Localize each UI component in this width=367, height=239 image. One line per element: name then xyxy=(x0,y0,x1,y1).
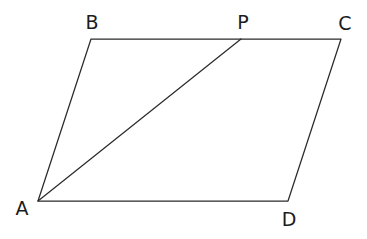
figure-canvas xyxy=(0,0,367,239)
parallelogram-outline xyxy=(38,39,341,201)
vertex-label-p: P xyxy=(237,13,248,32)
segment-ap xyxy=(38,39,241,201)
vertex-label-a: A xyxy=(16,199,29,218)
vertex-label-d: D xyxy=(282,210,297,229)
vertex-label-b: B xyxy=(85,13,98,32)
geometry-figure: A B P C D xyxy=(0,0,367,239)
vertex-label-c: C xyxy=(338,14,351,33)
